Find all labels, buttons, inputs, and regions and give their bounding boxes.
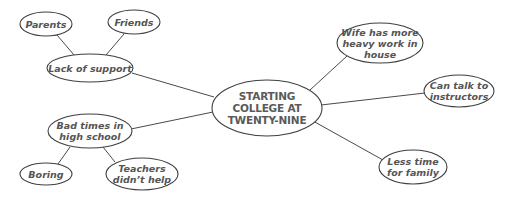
edge-badtimes-boring [58, 147, 70, 164]
label-lack-of-support: Lack of support [47, 54, 133, 82]
edge-badtimes-center [131, 112, 213, 129]
label-bad-times: Bad times in high school [48, 114, 132, 148]
label-parents: Parents [20, 12, 72, 36]
label-friends: Friends [108, 10, 160, 34]
label-boring: Boring [20, 163, 72, 185]
label-less-time: Less time for family [379, 150, 447, 184]
edge-center-lesstime [313, 121, 383, 160]
edge-parents-lack [57, 35, 74, 55]
label-can-talk: Can talk to instructors [424, 75, 494, 107]
edge-lack-center [132, 73, 214, 97]
edge-center-cantalk [321, 93, 425, 105]
label-wife: Wife has more heavy work in house [337, 23, 423, 63]
cluster-diagram: Parents Friends Lack of support Bad time… [0, 0, 516, 199]
label-teachers: Teachers didn’t help [106, 158, 178, 190]
edge-friends-lack [106, 34, 124, 55]
label-center-topic: STARTING COLLEGE AT TWENTY-NINE [212, 80, 322, 136]
